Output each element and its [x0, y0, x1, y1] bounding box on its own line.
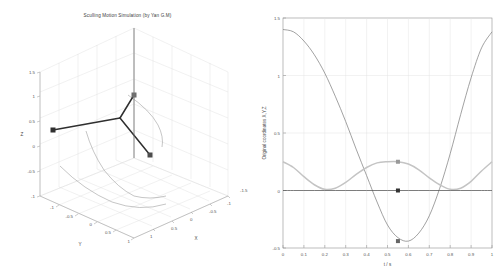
y-tick-label-2d: -0.5 — [272, 246, 280, 251]
data-marker-Y — [396, 160, 400, 164]
x-tick-label: 0 — [190, 217, 193, 222]
z-tick-label: -1 — [31, 194, 35, 199]
y-axis-label-2d: Original coordinates X,Y,Z — [262, 106, 267, 159]
x-tick-label-2d: 0.7 — [426, 252, 433, 257]
x-tick-label-2d: 0 — [282, 252, 285, 257]
x-tick-label-2d: 0.8 — [447, 252, 454, 257]
original-coordinates-plot-panel: 1.5 1 0.5 0 -0.5 Original coordinates X,… — [255, 0, 501, 277]
x-tick-label: 1 — [150, 234, 153, 239]
x-axis-label: X — [194, 236, 197, 241]
y-tick-label-2d: 1.5 — [274, 16, 281, 21]
data-marker-Z — [396, 189, 400, 193]
x-tick-label-2d: 0.3 — [343, 252, 350, 257]
y-axis-ticks-2d: 1.5 1 0.5 0 -0.5 Original coordinates X,… — [262, 16, 286, 251]
y-axis-label: Y — [78, 242, 81, 247]
data-marker-X — [396, 239, 400, 243]
x-axis-label-2d: t / s — [384, 262, 392, 267]
plot-3d-svg: -1 -0.5 0 0.5 1 1.5 Z -1 -0.5 0 0.5 1 — [0, 0, 255, 277]
z-axis-label: Z — [21, 132, 24, 137]
x-tick-label-2d: 0.9 — [468, 252, 475, 257]
z-tick-label: 1.5 — [29, 70, 36, 75]
x-tick-label: -1.5 — [240, 188, 248, 193]
x-tick-label-2d: 0.2 — [322, 252, 329, 257]
x-tick-label-2d: 0.6 — [405, 252, 412, 257]
sculling-3d-plot-panel: Sculling Motion Simulation (by Yan G.M) — [0, 0, 255, 277]
y-tick-label-2d: 0.5 — [274, 131, 281, 136]
body-frame-linkage — [53, 95, 150, 155]
marker-square — [148, 153, 153, 158]
z-tick-label: 1 — [33, 94, 36, 99]
y-tick-label: 0 — [90, 222, 93, 227]
x-tick-label-2d: 1 — [491, 252, 494, 257]
y-tick-label-2d: 1 — [278, 74, 281, 79]
y-tick-label: 1 — [128, 239, 131, 244]
x-tick-label: -1 — [227, 201, 231, 206]
y-tick-label: -1 — [50, 205, 54, 210]
y-tick-label: 0.5 — [105, 230, 112, 235]
z-tick-label: 0 — [33, 144, 36, 149]
y-tick-label-2d: 0 — [278, 189, 281, 194]
x-tick-label-2d: 0.5 — [384, 252, 391, 257]
x-tick-label-2d: 0.1 — [301, 252, 308, 257]
marker-square — [51, 128, 56, 133]
z-axis-ticks: -1 -0.5 0 0.5 1 1.5 Z — [21, 70, 40, 199]
trajectory-traces — [60, 95, 166, 208]
z-tick-label: -0.5 — [27, 169, 35, 174]
plot-2d-svg: 1.5 1 0.5 0 -0.5 Original coordinates X,… — [255, 0, 501, 277]
z-tick-label: 0.5 — [29, 119, 36, 124]
y-axis-ticks: -1 -0.5 0 0.5 1 Y — [50, 205, 134, 247]
body-frame-markers — [51, 93, 153, 158]
x-tick-label: -0.5 — [209, 209, 217, 214]
x-tick-label: 0.5 — [171, 226, 178, 231]
x-tick-label-2d: 0.4 — [364, 252, 371, 257]
y-tick-label: -0.5 — [65, 214, 73, 219]
figure-canvas: Sculling Motion Simulation (by Yan G.M) — [0, 0, 501, 277]
